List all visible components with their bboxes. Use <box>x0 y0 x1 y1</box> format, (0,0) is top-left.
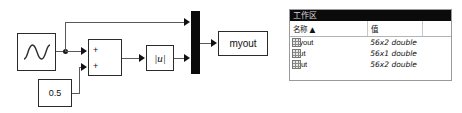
matrix-icon <box>292 38 301 47</box>
wire-branch-vertical <box>65 22 66 52</box>
table-row[interactable]: tout 56x1 double <box>290 48 451 59</box>
arrow-sum-input-1 <box>81 47 87 55</box>
wire-branch-to-mux <box>65 22 185 23</box>
column-header-extra[interactable] <box>422 21 451 37</box>
screenshot-root: + + |u| 0.5 myout <box>0 0 462 113</box>
sum-block[interactable]: + + <box>88 39 122 76</box>
column-header-value[interactable]: 值 <box>367 21 422 37</box>
variable-value-cell[interactable]: 56x2 double <box>367 37 422 49</box>
workspace-variables-table[interactable]: 名称 ▲ 值 myout 56x2 double <box>290 21 451 70</box>
variable-extra-cell <box>422 37 451 49</box>
arrow-abs-input <box>139 54 145 62</box>
wire-junction-to-sum <box>65 51 82 52</box>
table-row[interactable]: yout 56x2 double <box>290 59 451 70</box>
wire-sum-to-abs <box>122 58 140 59</box>
variable-name-cell[interactable]: yout <box>290 59 367 70</box>
abs-block[interactable]: |u| <box>146 45 174 71</box>
variable-name-cell[interactable]: myout <box>290 37 367 49</box>
arrow-mux-input-1 <box>184 18 190 26</box>
workspace-panel[interactable]: 工作区 名称 ▲ 值 myout 56x2 double <box>289 9 452 81</box>
constant-block[interactable]: 0.5 <box>38 79 72 107</box>
arrow-to-workspace-input <box>211 39 217 47</box>
sum-input-sign-2: + <box>93 62 98 71</box>
workspace-title: 工作区 <box>293 12 317 20</box>
to-workspace-block[interactable]: myout <box>218 31 268 56</box>
variable-value-cell[interactable]: 56x1 double <box>367 48 422 59</box>
sum-input-sign-1: + <box>93 46 98 55</box>
table-header-row: 名称 ▲ 值 <box>290 21 451 37</box>
variable-extra-cell <box>422 59 451 70</box>
variable-name-cell[interactable]: tout <box>290 48 367 59</box>
sine-wave-icon <box>23 40 51 64</box>
arrow-mux-input-2 <box>184 54 190 62</box>
variable-extra-cell <box>422 48 451 59</box>
variable-value-cell[interactable]: 56x2 double <box>367 59 422 70</box>
arrow-sum-input-2 <box>81 63 87 71</box>
wire-const-vertical <box>79 67 80 94</box>
sine-wave-block[interactable] <box>17 33 56 71</box>
matrix-icon <box>292 60 301 69</box>
workspace-titlebar[interactable]: 工作区 <box>290 10 451 21</box>
simulink-model-canvas[interactable]: + + |u| 0.5 myout <box>0 0 285 113</box>
column-header-name[interactable]: 名称 ▲ <box>290 21 367 37</box>
table-row[interactable]: myout 56x2 double <box>290 37 451 49</box>
matrix-icon <box>292 49 301 58</box>
mux-block[interactable] <box>191 11 200 74</box>
